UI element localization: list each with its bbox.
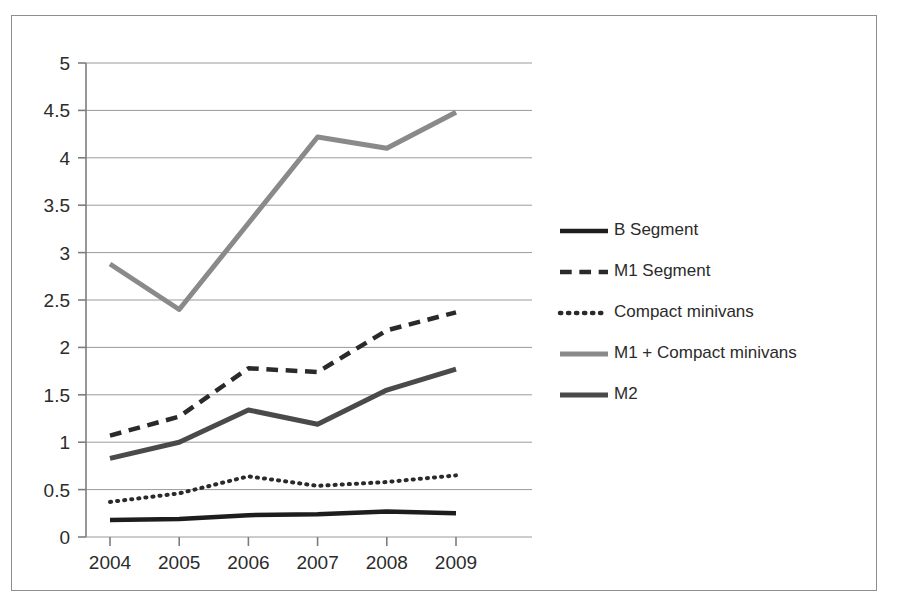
x-axis-tick-label: 2007 [296,552,338,573]
y-axis-tick-label: 0 [59,527,70,548]
series-line [110,475,456,502]
y-axis-tick-label: 3.5 [44,195,70,216]
x-axis-tick-label: 2008 [366,552,408,573]
legend: B SegmentM1 SegmentCompact minivansM1 + … [560,220,797,403]
y-axis-tick-label: 5 [59,53,70,74]
line-chart: 00.511.522.533.544.55 200420052006200720… [0,0,911,614]
y-axis-tick-label: 3 [59,243,70,264]
gridlines [86,63,532,537]
y-axis-tick-label: 4.5 [44,100,70,121]
x-axis-ticks [110,537,456,546]
y-axis-tick-label: 1.5 [44,385,70,406]
y-axis-ticks [78,63,86,537]
y-axis-tick-label: 0.5 [44,480,70,501]
y-axis-tick-label: 4 [59,148,70,169]
legend-label: M1 Segment [614,261,711,280]
x-axis-tick-label: 2005 [158,552,200,573]
data-series-group [110,112,456,520]
legend-label: Compact minivans [614,302,754,321]
chart-figure: 00.511.522.533.544.55 200420052006200720… [0,0,911,614]
y-axis-tick-label: 1 [59,432,70,453]
y-axis-tick-labels: 00.511.522.533.544.55 [44,53,71,548]
x-axis-tick-label: 2006 [227,552,269,573]
y-axis-tick-label: 2.5 [44,290,70,311]
x-axis-tick-labels: 200420052006200720082009 [89,552,477,573]
legend-label: M2 [614,384,638,403]
series-line [110,511,456,520]
x-axis-tick-label: 2004 [89,552,132,573]
series-line [110,112,456,309]
x-axis-tick-label: 2009 [435,552,477,573]
legend-label: B Segment [614,220,698,239]
legend-label: M1 + Compact minivans [614,343,797,362]
y-axis-tick-label: 2 [59,337,70,358]
series-line [110,369,456,458]
